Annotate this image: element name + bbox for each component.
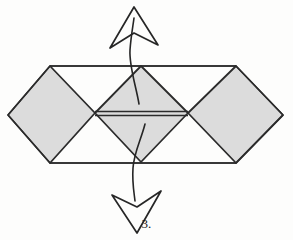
- diagram-page: 3.: [0, 0, 293, 240]
- step-number-caption: 3.: [0, 216, 293, 232]
- origami-figure: [0, 0, 293, 240]
